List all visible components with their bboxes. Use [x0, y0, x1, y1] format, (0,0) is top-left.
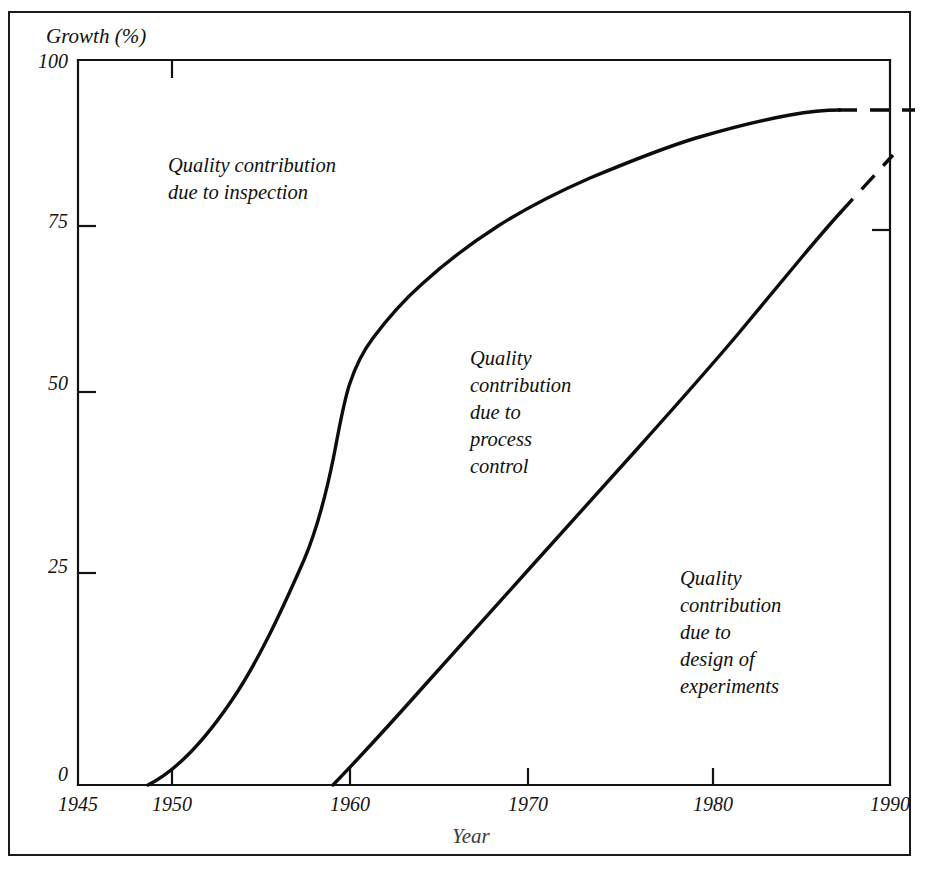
figure-container: Growth (%) Year 100 75 50 25 0 1945 1950… [0, 0, 925, 879]
curve-inspection [148, 110, 840, 785]
curve-design-of-experiments [333, 213, 840, 785]
curve-design-of-experiments-dashed-extension [840, 155, 893, 213]
plot-area [0, 0, 925, 879]
right-axis-ticks [872, 110, 890, 230]
axis-lines [78, 60, 890, 785]
y-axis-ticks [78, 226, 96, 573]
x-axis-ticks [172, 768, 713, 785]
